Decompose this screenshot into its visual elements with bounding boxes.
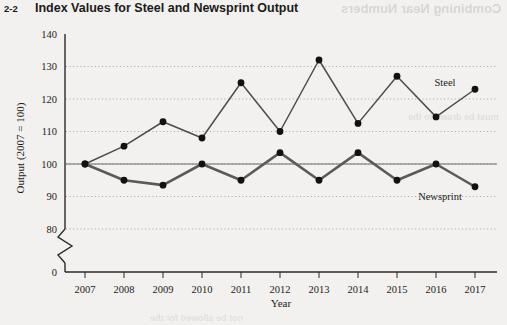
y-tick-label-90: 90 [47, 191, 58, 202]
y-tick-label-100: 100 [41, 159, 57, 170]
data-point [199, 135, 206, 142]
data-point [238, 177, 245, 184]
data-point [160, 182, 167, 189]
x-tick-label-2016: 2016 [426, 284, 447, 295]
data-point [433, 113, 440, 120]
y-axis-zero-label: 0 [52, 267, 57, 278]
figure-title: Index Values for Steel and Newsprint Out… [35, 1, 298, 15]
x-tick-label-2009: 2009 [153, 284, 174, 295]
y-tick-label-110: 110 [42, 126, 57, 137]
series-label-newsprint: Newsprint [418, 191, 462, 202]
x-tick-label-2014: 2014 [348, 284, 370, 295]
series-label-steel: Steel [435, 77, 456, 88]
data-point [472, 86, 479, 93]
x-tick-label-2007: 2007 [75, 284, 96, 295]
x-tick-label-2013: 2013 [309, 284, 330, 295]
data-point [355, 120, 362, 127]
y-axis-break-symbol [58, 229, 72, 263]
data-point [355, 149, 362, 156]
y-tick-label-120: 120 [41, 94, 57, 105]
y-axis-title: Output (2007 = 100) [14, 102, 27, 193]
chart-svg: 8090100110120130140 0 200720082009201020… [0, 18, 507, 325]
x-axis-ticks [85, 272, 475, 278]
gridlines [66, 67, 497, 230]
x-tick-label-2012: 2012 [270, 284, 291, 295]
data-point [238, 79, 245, 86]
y-axis-tick-labels: 8090100110120130140 [41, 29, 57, 235]
y-tick-label-80: 80 [47, 224, 58, 235]
data-point [316, 177, 323, 184]
data-point [160, 118, 167, 125]
line-chart: 8090100110120130140 0 200720082009201020… [0, 18, 507, 325]
data-point [277, 128, 284, 135]
x-tick-label-2015: 2015 [387, 284, 408, 295]
series-newsprint [82, 149, 479, 190]
data-point [199, 161, 206, 168]
data-point [121, 177, 128, 184]
x-tick-label-2017: 2017 [465, 284, 486, 295]
x-tick-label-2008: 2008 [114, 284, 135, 295]
series-line-steel [85, 60, 475, 164]
figure-number: 2-2 [4, 3, 18, 14]
series-line-newsprint [85, 153, 475, 187]
data-point [394, 177, 401, 184]
data-point [121, 143, 128, 150]
y-tick-label-130: 130 [41, 61, 57, 72]
data-point [472, 183, 479, 190]
data-point [277, 149, 284, 156]
x-tick-label-2011: 2011 [231, 284, 252, 295]
data-series-group [82, 57, 479, 191]
x-axis-tick-labels: 2007200820092010201120122013201420152016… [75, 284, 486, 295]
figure-page: 2-2 Index Values for Steel and Newsprint… [0, 0, 507, 325]
data-point [394, 73, 401, 80]
x-tick-label-2010: 2010 [192, 284, 213, 295]
data-point [316, 57, 323, 64]
data-point [82, 161, 89, 168]
y-tick-label-140: 140 [41, 29, 57, 40]
x-axis-title: Year [271, 297, 292, 309]
data-point [433, 161, 440, 168]
